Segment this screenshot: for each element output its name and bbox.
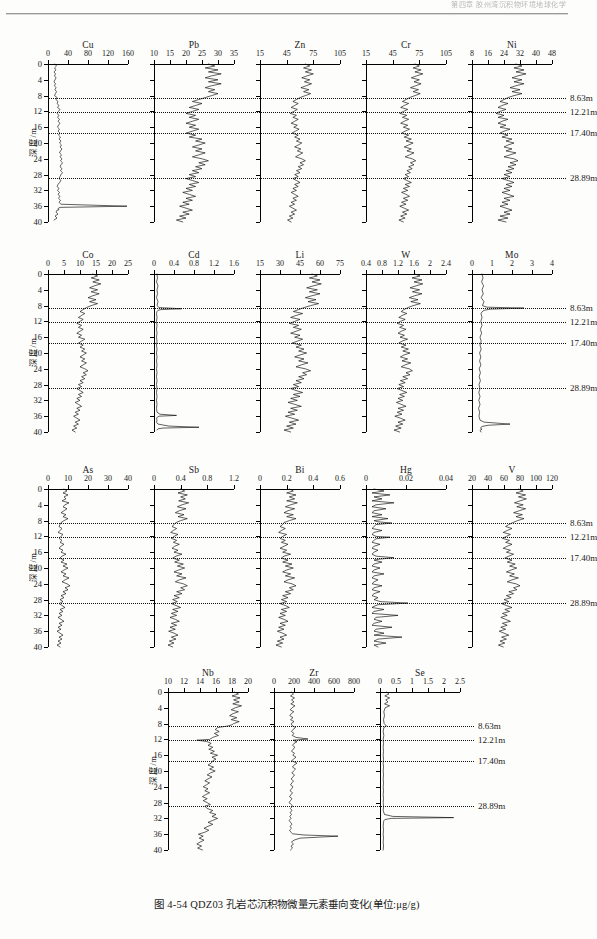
- x-tick-label: 0.02: [399, 474, 413, 483]
- figure-caption: 图 4-54 QDZ03 孔岩芯沉积物微量元素垂向变化(单位:μg/g): [0, 896, 574, 911]
- x-tick: [340, 60, 341, 64]
- curve-se: [380, 692, 460, 850]
- plot-area-li: 1530456075: [260, 274, 340, 432]
- curve-co: [48, 274, 128, 432]
- curve-cd: [154, 274, 234, 432]
- marker-label-8-63: 8.63m: [570, 93, 593, 103]
- x-tick-label: 1: [410, 677, 414, 686]
- y-tick-label: 40: [22, 427, 42, 437]
- x-tick-label: 15: [256, 49, 264, 58]
- plot-area-cd: 00.40.81.21.6: [154, 274, 234, 432]
- curve-ni: [472, 64, 552, 222]
- y-tick-label: 16: [22, 547, 42, 557]
- x-tick: [446, 270, 447, 274]
- y-tick: [376, 850, 380, 851]
- plot-area-v: 20406080100120: [472, 489, 552, 647]
- x-tick-label: 160: [122, 49, 134, 58]
- x-tick-label: 1: [490, 259, 494, 268]
- x-tick-label: 10: [76, 259, 84, 268]
- x-tick: [446, 485, 447, 489]
- x-tick-label: 10: [164, 677, 172, 686]
- x-tick-label: 1.6: [409, 259, 419, 268]
- x-tick-label: 16: [484, 49, 492, 58]
- curve-nb: [168, 692, 248, 850]
- plot-area-ni: 81624324048: [472, 64, 552, 222]
- y-tick: [256, 432, 260, 433]
- y-tick-label: 24: [22, 579, 42, 589]
- x-tick-label: 35: [230, 49, 238, 58]
- x-tick-label: 18: [228, 677, 236, 686]
- x-tick-label: 40: [64, 49, 72, 58]
- x-tick-label: 16: [212, 677, 220, 686]
- x-tick-label: 40: [532, 49, 540, 58]
- x-tick-label: 12: [180, 677, 188, 686]
- x-tick-label: 0.4: [361, 259, 371, 268]
- x-tick: [340, 485, 341, 489]
- header-rule: [6, 13, 568, 14]
- y-tick-label: 12: [22, 531, 42, 541]
- x-tick-label: 1.6: [229, 259, 239, 268]
- y-tick-label: 40: [22, 642, 42, 652]
- y-tick: [468, 432, 472, 433]
- x-tick-label: 0: [378, 677, 382, 686]
- plot-area-cu: 040801201600481216202428323640: [48, 64, 128, 222]
- y-tick-label: 4: [142, 703, 162, 713]
- x-tick-label: 15: [256, 259, 264, 268]
- plot-area-hg: 00.020.04: [366, 489, 446, 647]
- x-tick-label: 3: [530, 259, 534, 268]
- x-tick-label: 40: [484, 474, 492, 483]
- x-tick-label: 0: [152, 474, 156, 483]
- y-tick-label: 0: [22, 269, 42, 279]
- page-header: 第四章 胶州湾沉积物环境地球化学: [0, 0, 574, 16]
- y-tick: [468, 222, 472, 223]
- x-tick-label: 800: [348, 677, 360, 686]
- x-tick-label: 25: [124, 259, 132, 268]
- plot-area-bi: 00.20.40.6: [260, 489, 340, 647]
- x-tick-label: 75: [336, 259, 344, 268]
- x-tick-label: 2.5: [455, 677, 465, 686]
- x-tick-label: 20: [244, 677, 252, 686]
- y-tick: [256, 647, 260, 648]
- y-tick-label: 0: [22, 59, 42, 69]
- y-tick-label: 16: [22, 122, 42, 132]
- x-tick-label: 20: [108, 259, 116, 268]
- x-tick-label: 1.2: [229, 474, 239, 483]
- curve-hg: [366, 489, 446, 647]
- curve-zn: [260, 64, 340, 222]
- marker-label-8-63: 8.63m: [570, 518, 593, 528]
- marker-label-8-63: 8.63m: [570, 303, 593, 313]
- marker-label-12-21: 12.21m: [478, 735, 505, 745]
- x-tick-label: 20: [84, 474, 92, 483]
- y-tick-label: 36: [22, 201, 42, 211]
- y-tick: [44, 647, 48, 648]
- plot-area-zr: 0200400600800: [274, 692, 354, 850]
- y-tick-label: 0: [22, 484, 42, 494]
- x-tick-label: 5: [62, 259, 66, 268]
- x-tick: [552, 270, 553, 274]
- curve-zr: [274, 692, 354, 850]
- x-tick-label: 400: [308, 677, 320, 686]
- x-tick-label: 0.5: [391, 677, 401, 686]
- curve-sb: [154, 489, 234, 647]
- x-tick-label: 60: [500, 474, 508, 483]
- x-tick: [552, 485, 553, 489]
- x-tick-label: 0.8: [202, 474, 212, 483]
- x-tick-label: 1.5: [423, 677, 433, 686]
- y-tick-label: 24: [22, 154, 42, 164]
- x-tick-label: 120: [102, 49, 114, 58]
- x-tick-label: 0.6: [335, 474, 345, 483]
- x-tick-label: 24: [500, 49, 508, 58]
- y-tick-label: 40: [142, 845, 162, 855]
- marker-label-12-21: 12.21m: [570, 532, 597, 542]
- x-tick: [234, 485, 235, 489]
- x-tick-label: 75: [309, 49, 317, 58]
- x-tick-label: 20: [182, 49, 190, 58]
- x-tick-label: 48: [548, 49, 556, 58]
- marker-label-17-4: 17.40m: [570, 338, 597, 348]
- marker-label-12-21: 12.21m: [570, 107, 597, 117]
- y-tick-label: 32: [22, 610, 42, 620]
- x-tick-label: 0: [258, 474, 262, 483]
- x-tick-label: 0.04: [439, 474, 453, 483]
- x-tick-label: 80: [84, 49, 92, 58]
- y-tick-label: 24: [142, 782, 162, 792]
